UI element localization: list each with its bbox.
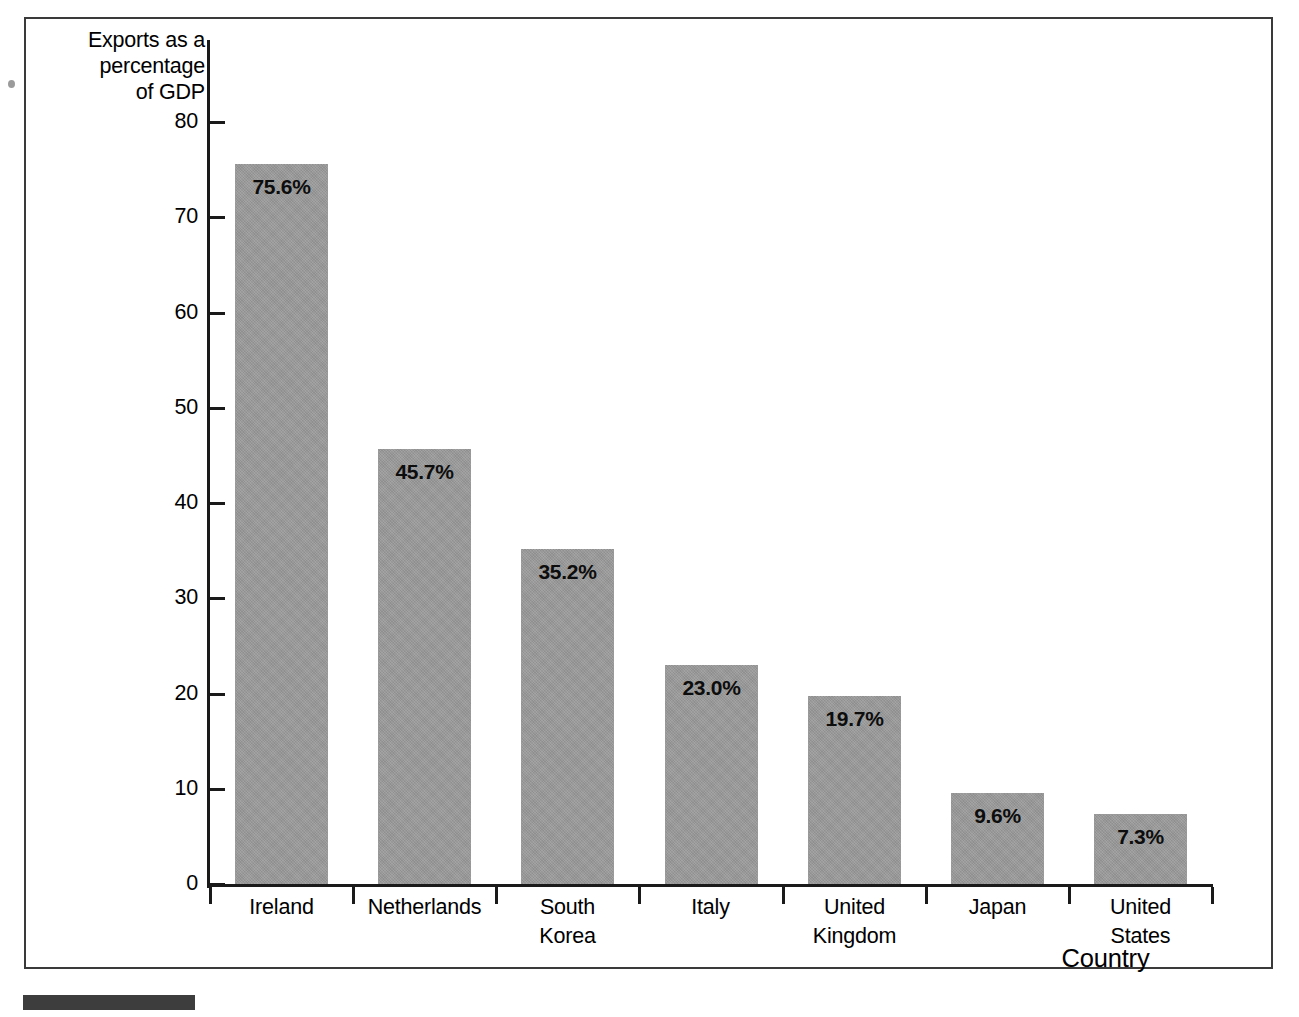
x-axis-category-label: Netherlands (353, 893, 496, 922)
x-axis-category-label: Ireland (210, 893, 353, 922)
y-axis-tick (210, 597, 225, 600)
y-axis-tick-label: 40 (108, 492, 198, 514)
bar[interactable]: 35.2% (521, 549, 614, 884)
bar[interactable]: 23.0% (665, 665, 758, 884)
bar-value-label: 75.6% (235, 175, 328, 199)
bar[interactable]: 9.6% (951, 793, 1044, 884)
y-axis-tick (210, 216, 225, 219)
y-axis-tick-label: 80 (108, 111, 198, 133)
bar[interactable]: 45.7% (378, 449, 471, 884)
x-axis-category-label: United Kingdom (783, 893, 926, 951)
bar-value-label: 19.7% (808, 707, 901, 731)
y-axis-tick-label: 60 (108, 302, 198, 324)
bar[interactable]: 19.7% (808, 696, 901, 884)
bar-value-label: 35.2% (521, 560, 614, 584)
x-axis-category-label: United States (1069, 893, 1212, 951)
figure-page: Exports as a percentage of GDP 807060504… (0, 0, 1299, 1017)
bar-value-label: 9.6% (951, 804, 1044, 828)
y-axis-tick (210, 883, 225, 886)
caption-marker-block (23, 995, 195, 1010)
bar-value-label: 45.7% (378, 460, 471, 484)
y-axis-tick (210, 693, 225, 696)
y-axis-tick (210, 121, 225, 124)
x-axis-category-label: South Korea (496, 893, 639, 951)
y-axis-tick-label: 50 (108, 397, 198, 419)
y-axis-tick-label: 20 (108, 683, 198, 705)
y-axis-tick-label: 30 (108, 587, 198, 609)
x-axis-line (207, 884, 1213, 887)
x-axis-category-label: Italy (639, 893, 782, 922)
bar-chart: Exports as a percentage of GDP 807060504… (0, 0, 1299, 1017)
y-axis-tick (210, 312, 225, 315)
y-axis-tick-label: 70 (108, 206, 198, 228)
y-axis-tick (210, 788, 225, 791)
bar[interactable]: 75.6% (235, 164, 328, 884)
bar[interactable]: 7.3% (1094, 814, 1187, 884)
y-axis-tick-label: 0 (108, 873, 198, 895)
x-axis-title: Country (1003, 944, 1208, 973)
y-axis-title: Exports as a percentage of GDP (30, 27, 205, 105)
y-axis-tick (210, 407, 225, 410)
bar-value-label: 23.0% (665, 676, 758, 700)
y-axis-line (207, 40, 210, 888)
y-axis-tick-label: 10 (108, 778, 198, 800)
y-axis-tick (210, 502, 225, 505)
x-axis-category-label: Japan (926, 893, 1069, 922)
bar-value-label: 7.3% (1094, 825, 1187, 849)
